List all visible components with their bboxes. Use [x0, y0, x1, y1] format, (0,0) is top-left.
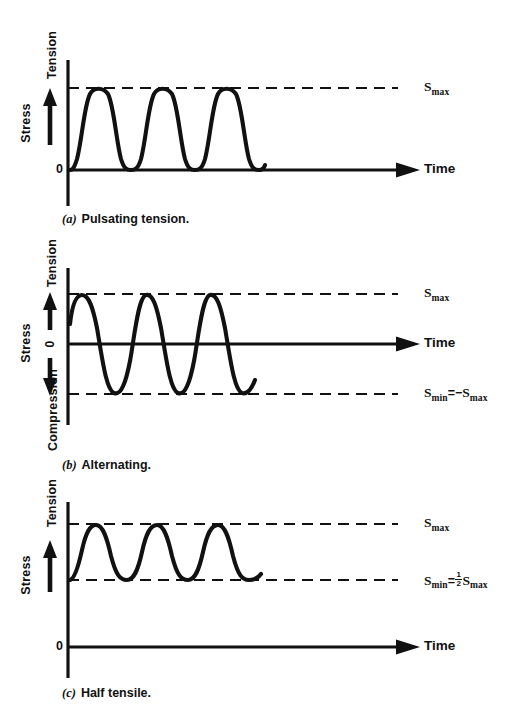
panel-caption-b-text: Alternating. [77, 458, 151, 472]
x-axis-label-time: Time [424, 638, 455, 653]
y-axis-sense-label-tension: Tension [45, 19, 59, 91]
y-axis-sense-label-compression: Compression [46, 355, 60, 465]
level-label-smax-symbol: S [424, 285, 432, 300]
level-label-smin: Smin=12Smax [424, 571, 488, 589]
panel-caption-c-index: (c) [62, 686, 76, 700]
level-label-smin-equals: = [448, 574, 455, 588]
level-label-smax: Smax [424, 515, 449, 531]
level-label-smin-subscript: min [432, 580, 448, 590]
x-axis-label-time: Time [424, 161, 455, 176]
level-label-smax: Smax [424, 285, 449, 301]
fraction-denominator: 2 [455, 579, 461, 588]
panel-caption-b: (b)Alternating. [62, 458, 151, 473]
fatigue-stress-cycle-figure: 0 Stress Tension Smax Time (a)Pulsating … [0, 0, 508, 712]
x-axis-arrowhead [396, 163, 420, 178]
panel-alternating: 0 Stress Tension Compression Smax Smin=−… [0, 240, 508, 485]
panel-caption-a-index: (a) [62, 212, 77, 226]
waveform-alternating [70, 295, 255, 394]
panel-caption-c: (c)Half tensile. [62, 686, 151, 701]
panel-caption-c-text: Half tensile. [76, 686, 151, 700]
y-axis-sense-label-tension: Tension [45, 227, 59, 299]
y-axis-zero-label: 0 [56, 639, 63, 653]
level-label-smin-rhs-symbol: S [462, 573, 470, 588]
y-axis-group-label-stress: Stress [19, 93, 33, 153]
level-label-smin: Smin=−Smax [424, 385, 488, 401]
level-label-smin-symbol: S [424, 385, 432, 400]
level-label-smin-rhs-subscript: max [470, 580, 488, 590]
one-half-fraction: 12 [455, 571, 461, 588]
panel-pulsating-tension: 0 Stress Tension Smax Time (a)Pulsating … [0, 20, 508, 230]
level-label-smax-subscript: max [432, 523, 450, 533]
level-label-smin-symbol: S [424, 573, 432, 588]
panel-half-tensile: 0 Stress Tension Smax Smin=12Smax Time (… [0, 480, 508, 712]
panel-a-plot [0, 20, 508, 230]
level-label-smax-symbol: S [424, 79, 432, 94]
panel-caption-a-text: Pulsating tension. [77, 212, 190, 226]
level-label-smax-symbol: S [424, 515, 432, 530]
waveform-half-tensile [70, 525, 261, 580]
fraction-numerator: 1 [455, 571, 461, 579]
level-label-smax-subscript: max [432, 293, 450, 303]
level-label-smin-equals: = [448, 386, 455, 400]
y-axis-sense-label-tension: Tension [45, 467, 59, 539]
y-axis-group-label-stress: Stress [19, 313, 33, 373]
x-axis-label-time: Time [424, 335, 455, 350]
x-axis-arrowhead [396, 640, 420, 655]
x-axis-arrowhead [396, 337, 420, 352]
y-axis-group-label-stress: Stress [19, 545, 33, 605]
panel-b-plot [0, 240, 508, 485]
tension-direction-arrow [43, 540, 57, 592]
panel-caption-b-index: (b) [62, 458, 77, 472]
level-label-smax: Smax [424, 79, 449, 95]
level-label-smin-rhs-symbol: S [462, 385, 470, 400]
waveform-pulsating-tension [70, 89, 265, 170]
tension-direction-arrow [43, 88, 57, 145]
level-label-smin-subscript: min [432, 393, 448, 403]
y-axis-zero-label: 0 [56, 162, 63, 176]
level-label-smin-rhs-subscript: max [470, 393, 488, 403]
level-label-smax-subscript: max [432, 87, 450, 97]
panel-caption-a: (a)Pulsating tension. [62, 212, 189, 227]
